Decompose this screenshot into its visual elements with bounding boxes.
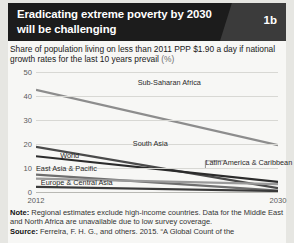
gridline <box>36 192 278 193</box>
gridline <box>36 96 278 97</box>
note-line: Note: Regional estimates exclude high-in… <box>10 208 288 227</box>
gridline <box>36 120 278 121</box>
figure-header: Eradicating extreme poverty by 2030 will… <box>8 3 286 41</box>
source-text: Ferreira, F. H. G., and others. 2015. “A… <box>38 227 234 236</box>
gridline <box>36 72 278 73</box>
figure-title: Eradicating extreme poverty by 2030 will… <box>17 7 222 36</box>
figure-subtitle: Share of population living on less than … <box>10 44 286 64</box>
y-axis-tick-label: 20 <box>10 140 32 149</box>
series-label: East Asia & Pacific <box>36 164 97 173</box>
figure-subtitle-text: Share of population living on less than … <box>10 44 275 64</box>
card-left-edge <box>0 0 8 243</box>
figure-number-badge: 1b <box>264 14 277 26</box>
line-chart: 5040302010020122030Sub-Saharan AfricaSou… <box>10 64 286 206</box>
source-line: Source: Ferreira, F. H. G., and others. … <box>10 227 288 236</box>
note-label: Note: <box>10 208 29 217</box>
series-label: Latin America & Caribbean <box>205 158 292 167</box>
plot-area: 5040302010020122030Sub-Saharan AfricaSou… <box>36 72 278 192</box>
series-line <box>36 90 278 145</box>
figure-card: Eradicating extreme poverty by 2030 will… <box>0 0 294 243</box>
card-right-edge <box>286 0 294 243</box>
y-axis-tick-label: 40 <box>10 92 32 101</box>
series-label: South Asia <box>133 139 168 148</box>
plot-lines-layer <box>36 72 278 192</box>
series-label: Europe & Central Asia <box>41 178 113 187</box>
series-label: Sub-Saharan Africa <box>138 78 201 87</box>
figure-footnote: Note: Regional estimates exclude high-in… <box>10 208 288 236</box>
x-axis-tick-label: 2030 <box>270 196 287 205</box>
y-axis-tick-label: 10 <box>10 164 32 173</box>
figure-subtitle-unit: (%) <box>161 54 174 64</box>
y-axis-tick-label: 30 <box>10 116 32 125</box>
series-lines-svg <box>36 72 278 192</box>
source-label: Source: <box>10 227 38 236</box>
y-axis-tick-label: 50 <box>10 68 32 77</box>
note-text: Regional estimates exclude high-income c… <box>10 208 283 226</box>
x-axis-tick-label: 2012 <box>28 196 45 205</box>
series-label: World <box>60 151 79 160</box>
